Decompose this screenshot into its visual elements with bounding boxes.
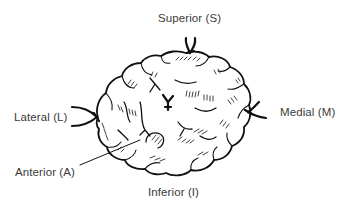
anterior-pointer-line xyxy=(80,140,140,165)
label-lateral: Lateral (L) xyxy=(14,112,68,124)
center-suture-icon xyxy=(163,95,173,110)
label-inferior: Inferior (I) xyxy=(148,187,199,199)
specimen-orientation-diagram: Superior (S) Lateral (L) Medial (M) Ante… xyxy=(0,0,344,206)
label-superior: Superior (S) xyxy=(158,13,221,25)
superior-suture-icon xyxy=(186,38,195,53)
label-anterior: Anterior (A) xyxy=(15,167,75,179)
medial-suture-icon xyxy=(245,102,266,118)
label-medial: Medial (M) xyxy=(280,107,335,119)
specimen-outline xyxy=(97,51,251,175)
lateral-suture-icon xyxy=(72,107,99,126)
